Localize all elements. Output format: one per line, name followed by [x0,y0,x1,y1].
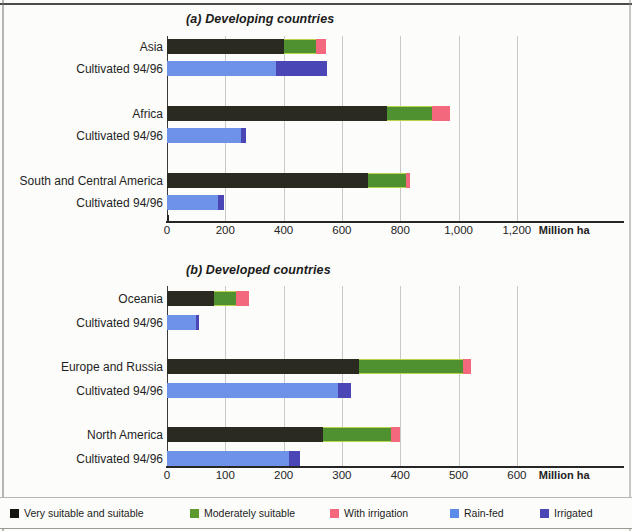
row-label-cultivated: Cultivated 94/96 [76,452,163,466]
x-tick-label: 400 [274,224,293,236]
x-tick-label: 200 [216,224,235,236]
legend-swatch-icon [190,509,199,518]
segment-rain-fed [167,61,276,76]
segment-moderately-suitable [214,291,236,306]
x-tick-label: 1,000 [444,224,473,236]
legend-label: Moderately suitable [204,507,295,519]
legend-swatch-icon [330,509,339,518]
row-label-region: Asia [140,40,163,54]
row-label-region: Africa [132,107,163,121]
x-tick-label: 0 [164,469,170,481]
bar-cultivated [167,128,246,143]
segment-irrigated [241,128,245,143]
row-label-cultivated: Cultivated 94/96 [76,196,163,210]
segment-moderately-suitable [284,39,316,54]
segment-moderately-suitable [387,106,432,121]
segment-moderately-suitable [359,359,462,374]
bar-cultivated [167,195,224,210]
segment-with-irrigation [391,427,400,442]
gridline [517,286,518,466]
x-tick-label: 600 [332,224,351,236]
segment-with-irrigation [236,291,249,306]
legend-item-with-irrigation[interactable]: With irrigation [330,507,408,519]
row-label-cultivated: Cultivated 94/96 [76,62,163,76]
row-label-region: North America [87,428,163,442]
panel-b-tick-labels: 0100200300400500600Million ha [0,469,632,485]
segment-moderately-suitable [368,173,406,188]
bar-potential [167,427,400,442]
x-tick-label: 100 [216,469,235,481]
panel-a-tick-labels: 02004006008001,0001,200Million ha [0,224,632,240]
panel-a-origin-tick [167,215,169,222]
legend-label: Irrigated [554,507,593,519]
segment-rain-fed [167,128,241,143]
x-tick-label: 1,200 [502,224,531,236]
legend-item-rain-fed[interactable]: Rain-fed [450,507,504,519]
legend-swatch-icon [540,509,549,518]
bar-potential [167,39,326,54]
bar-potential [167,291,249,306]
segment-rain-fed [167,315,196,330]
row-label-cultivated: Cultivated 94/96 [76,384,163,398]
figure-page: (a) Developing countries 02004006008001,… [0,0,632,531]
segment-very-suitable [167,359,359,374]
segment-rain-fed [167,383,338,398]
segment-irrigated [196,315,199,330]
segment-moderately-suitable [323,427,391,442]
row-label-region: South and Central America [20,174,163,188]
x-tick-label: 400 [391,469,410,481]
legend-label: Rain-fed [464,507,504,519]
segment-very-suitable [167,291,214,306]
x-tick-label: 300 [332,469,351,481]
bar-cultivated [167,61,327,76]
legend-label: Very suitable and suitable [24,507,144,519]
axis-unit-label: Million ha [539,224,590,236]
segment-with-irrigation [406,173,410,188]
bar-cultivated [167,451,300,466]
segment-rain-fed [167,451,289,466]
gridline [517,36,518,221]
segment-irrigated [289,451,299,466]
gridline [459,36,460,221]
segment-rain-fed [167,195,218,210]
gridline [459,286,460,466]
segment-with-irrigation [432,106,449,121]
legend-item-irrigated[interactable]: Irrigated [540,507,593,519]
row-label-region: Europe and Russia [61,360,163,374]
segment-irrigated [218,195,224,210]
segment-irrigated [276,61,327,76]
chart-legend: Very suitable and suitableModerately sui… [0,497,632,529]
x-tick-label: 0 [164,224,170,236]
panel-b-axis-line [166,466,624,468]
legend-item-very-suitable[interactable]: Very suitable and suitable [10,507,144,519]
segment-very-suitable [167,39,284,54]
row-label-cultivated: Cultivated 94/96 [76,129,163,143]
gridline [400,36,401,221]
segment-very-suitable [167,427,323,442]
bar-potential [167,359,471,374]
segment-with-irrigation [316,39,326,54]
gridline [400,286,401,466]
legend-item-moderately-suitable[interactable]: Moderately suitable [190,507,295,519]
row-label-region: Oceania [118,292,163,306]
legend-swatch-icon [10,509,19,518]
bar-cultivated [167,315,199,330]
gridline [342,36,343,221]
segment-with-irrigation [463,359,472,374]
x-tick-label: 500 [449,469,468,481]
panel-a-axis-line [166,221,624,223]
legend-label: With irrigation [344,507,408,519]
segment-very-suitable [167,173,368,188]
bar-potential [167,106,450,121]
panel-a-title: (a) Developing countries [186,12,334,26]
x-tick-label: 600 [507,469,526,481]
x-tick-label: 800 [391,224,410,236]
panel-b-title: (b) Developed countries [186,263,331,277]
segment-irrigated [338,383,351,398]
x-tick-label: 200 [274,469,293,481]
bar-potential [167,173,410,188]
legend-swatch-icon [450,509,459,518]
row-label-cultivated: Cultivated 94/96 [76,316,163,330]
bar-cultivated [167,383,351,398]
axis-unit-label: Million ha [539,469,590,481]
